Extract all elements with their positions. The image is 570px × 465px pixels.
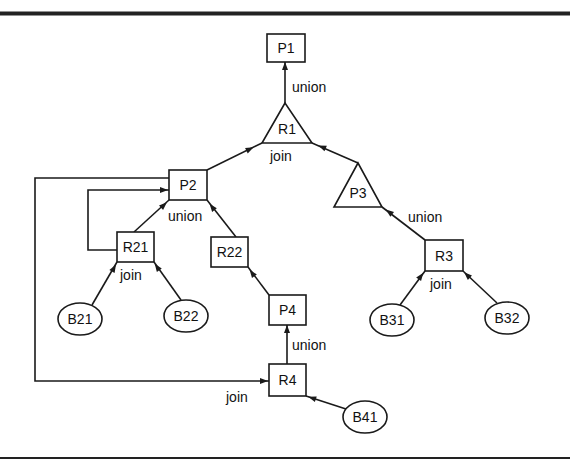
node-b21: B21 <box>58 303 102 335</box>
arrowhead-icon <box>284 325 290 333</box>
edge-label-join: join <box>225 389 248 405</box>
edges-layer <box>35 62 497 409</box>
node-label: P4 <box>279 302 296 318</box>
edge-label-union: union <box>408 209 442 225</box>
edge-p3-to-r1 <box>312 143 358 163</box>
edge-label-join: join <box>429 276 452 292</box>
node-label: R1 <box>278 121 296 137</box>
node-label: P3 <box>349 185 366 201</box>
arrowhead-icon <box>308 396 317 402</box>
node-p2: P2 <box>169 170 207 200</box>
node-label: B31 <box>380 312 405 328</box>
node-label: R4 <box>279 372 297 388</box>
node-label: B21 <box>68 311 93 327</box>
node-b41: B41 <box>343 401 387 433</box>
arrowhead-icon <box>416 273 423 281</box>
query-tree-diagram: P1R1P2P3R21R22R3P4R4B21B22B31B32B41 unio… <box>0 0 570 465</box>
arrowhead-icon <box>245 147 254 153</box>
node-r1: R1 <box>262 103 312 143</box>
arrowhead-icon <box>318 145 327 151</box>
node-p4: P4 <box>269 295 306 325</box>
node-label: B32 <box>495 310 520 326</box>
arrowhead-icon <box>282 62 288 70</box>
node-p3: P3 <box>334 163 382 207</box>
node-b31: B31 <box>370 304 414 336</box>
node-label: P1 <box>277 40 294 56</box>
node-label: R21 <box>123 239 149 255</box>
node-label: B22 <box>174 308 199 324</box>
node-r22: R22 <box>211 237 248 267</box>
node-label: P2 <box>179 177 196 193</box>
edge-label-join: join <box>119 267 142 283</box>
node-p1: P1 <box>267 34 305 62</box>
node-b32: B32 <box>485 302 529 334</box>
edge-label-union: union <box>292 337 326 353</box>
node-r21: R21 <box>117 232 154 262</box>
edge-p2-to-r4 <box>35 178 269 381</box>
arrowhead-icon <box>160 187 168 193</box>
edge-label-union: union <box>168 208 202 224</box>
node-b22: B22 <box>164 300 208 332</box>
edge-label-union: union <box>292 79 326 95</box>
edge-label-join: join <box>269 148 292 164</box>
node-r3: R3 <box>425 240 463 271</box>
node-r4: R4 <box>269 364 306 396</box>
edge-p2-to-r1 <box>207 143 262 170</box>
arrowhead-icon <box>109 265 116 273</box>
arrowhead-icon <box>260 378 268 384</box>
node-label: B41 <box>353 409 378 425</box>
node-label: R22 <box>217 244 243 260</box>
node-label: R3 <box>435 248 453 264</box>
